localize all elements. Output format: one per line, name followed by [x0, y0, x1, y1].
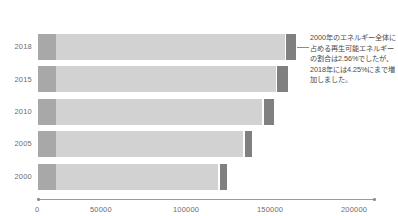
x-axis-end-cap	[373, 198, 376, 201]
bar-row[interactable]	[38, 34, 296, 60]
bar-segment-renewable	[264, 99, 274, 125]
x-tick-label-200000: 200000	[341, 205, 367, 214]
bar-segment-main	[56, 34, 285, 60]
plot-area: 2018 2015 2010 2005 2000	[0, 0, 398, 216]
bar-row[interactable]	[38, 66, 288, 92]
x-axis-start-cap	[37, 198, 40, 201]
bar-segment-main	[56, 131, 243, 157]
bar-segment-main	[56, 66, 276, 92]
x-tick-label-100000: 100000	[173, 205, 199, 214]
bar-segment-base	[38, 34, 56, 60]
bar-segment-base	[38, 131, 56, 157]
bar-segment-base	[38, 99, 56, 125]
bar-segment-renewable	[245, 131, 252, 157]
bar-segment-renewable	[286, 34, 296, 60]
category-label-2010: 2010	[6, 107, 32, 116]
annotation-text: 2000年のエネルギー全体に占める再生可能エネルギーの割合は2.56%でしたが、…	[310, 33, 396, 86]
bar-segment-base	[38, 66, 56, 92]
bar-segment-main	[56, 99, 262, 125]
bar-segment-renewable	[220, 164, 227, 190]
bar-row[interactable]	[38, 164, 227, 190]
category-label-2015: 2015	[6, 75, 32, 84]
chart-canvas: 2018 2015 2010 2005 2000	[0, 0, 398, 216]
category-label-2018: 2018	[6, 42, 32, 51]
bar-row[interactable]	[38, 131, 252, 157]
x-axis-line	[38, 199, 375, 200]
category-label-2000: 2000	[6, 172, 32, 181]
bar-segment-main	[56, 164, 218, 190]
x-tick-label-150000: 150000	[257, 205, 283, 214]
annotation-leader-line	[297, 47, 309, 48]
x-tick-label-0: 0	[35, 205, 39, 214]
x-tick-label-50000: 50000	[90, 205, 112, 214]
bar-segment-renewable	[277, 66, 288, 92]
bar-segment-base	[38, 164, 56, 190]
category-label-2005: 2005	[6, 139, 32, 148]
bar-row[interactable]	[38, 99, 274, 125]
